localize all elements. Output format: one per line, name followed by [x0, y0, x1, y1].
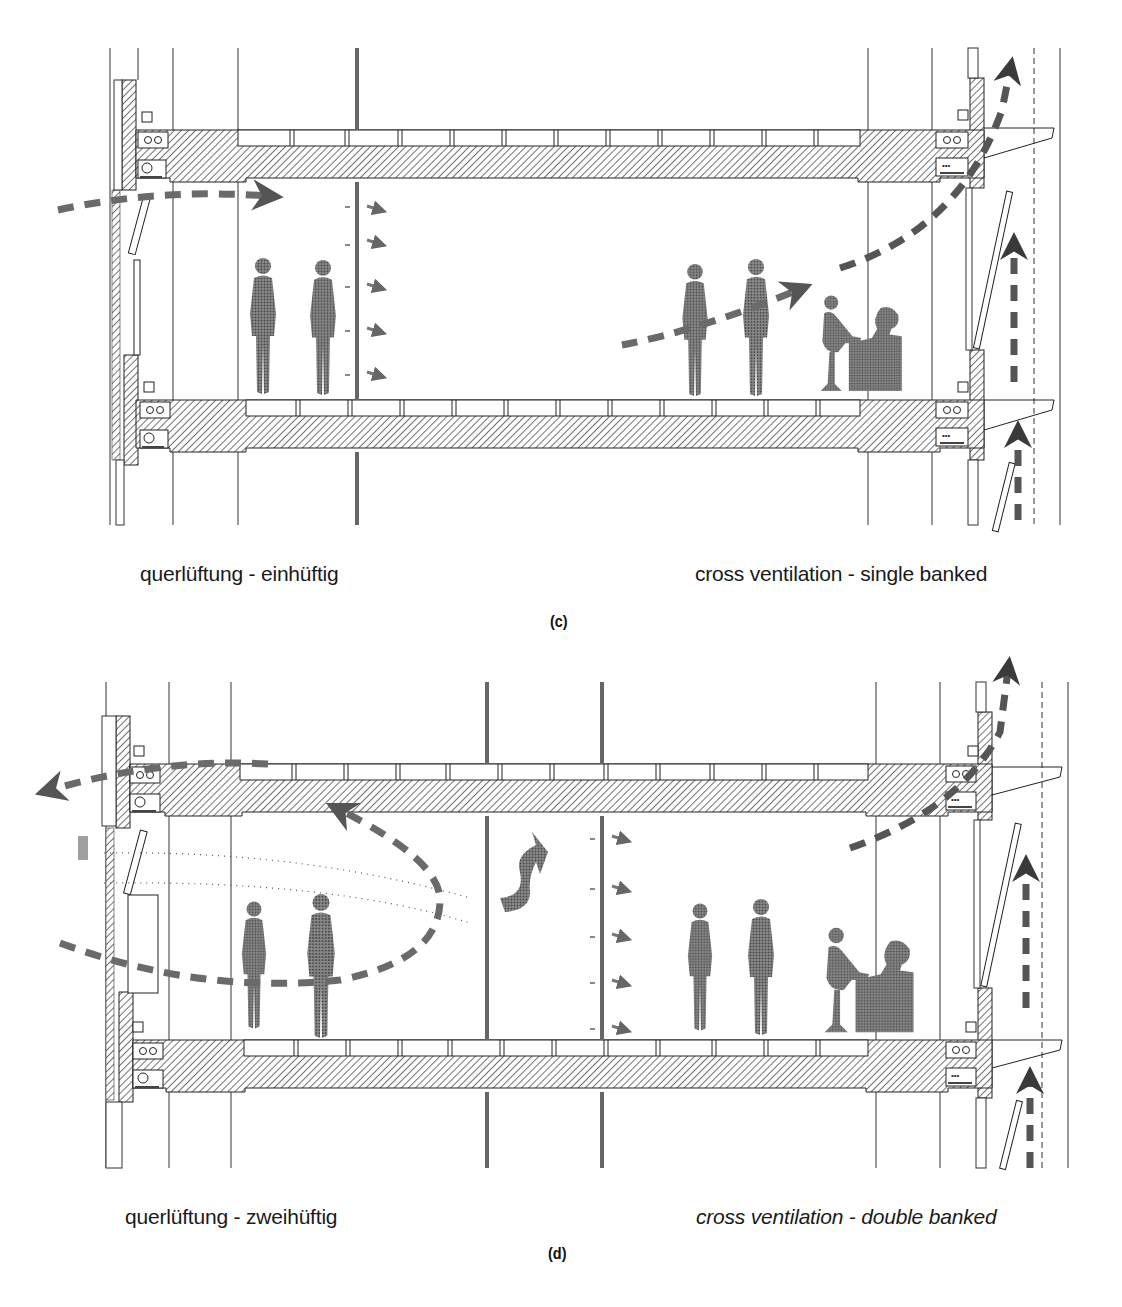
slab-top: •••: [130, 746, 992, 816]
partition: [345, 48, 380, 525]
slab-bottom: •••: [133, 1022, 992, 1092]
caption-german: querlüftung - einhüftig: [140, 562, 339, 586]
figure-c: •••: [0, 0, 1122, 640]
caption-english: cross ventilation - double banked: [696, 1205, 996, 1229]
svg-text:•••: •••: [942, 431, 951, 440]
grid-lines: [110, 48, 1060, 525]
occupants: [242, 894, 914, 1038]
corridor-partitions: [485, 682, 604, 1168]
svg-text:•••: •••: [942, 161, 951, 170]
slab-bottom: •••: [136, 382, 984, 452]
section-diagram-c: •••: [0, 0, 1122, 640]
figure-label: (c): [550, 612, 568, 632]
caption-english: cross ventilation - single banked: [695, 562, 987, 586]
slab-top: •••: [136, 110, 984, 182]
svg-text:•••: •••: [951, 1071, 960, 1080]
figure-d: •••: [0, 640, 1122, 1307]
figure-label: (d): [548, 1244, 566, 1264]
dotted-flow-paths: [104, 853, 470, 923]
airflow-arrows: [50, 670, 1030, 1168]
caption-german: querlüftung - zweihüftig: [125, 1205, 337, 1229]
